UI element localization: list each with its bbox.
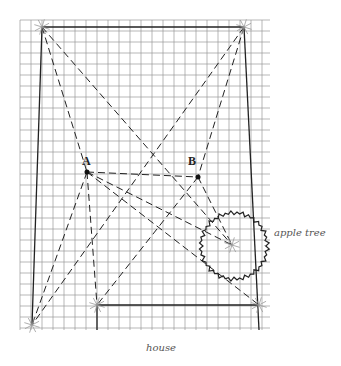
sight-lines [32, 27, 259, 325]
point-b-label: B [188, 154, 196, 168]
garden-diagram: A B apple tree house [0, 0, 341, 366]
house-label: house [146, 342, 176, 353]
apple-tree-label: apple tree [274, 227, 326, 238]
point-a-label: A [82, 154, 91, 168]
point-markers [24, 19, 266, 332]
boundary-lines [32, 27, 259, 330]
